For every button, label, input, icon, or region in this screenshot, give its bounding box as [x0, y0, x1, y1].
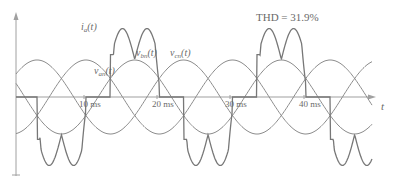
tick-label-40: 40 ms [299, 99, 321, 109]
ia-label-tail: (t) [87, 21, 97, 33]
van-label-tail: (t) [105, 65, 115, 77]
vbn-label-tail: (t) [147, 47, 157, 59]
vbn-label: vbn(t) [136, 47, 158, 60]
y-axis-arrow-icon [14, 12, 19, 20]
tick-label-10: 10 ms [79, 99, 101, 109]
thd-annotation: THD = 31.9% [256, 11, 319, 23]
time-axis-arrow-icon [368, 95, 376, 100]
waveform-chart: THD = 31.9% t ia(t) van(t) vbn(t) vcn(t)… [0, 0, 398, 181]
axes [12, 12, 376, 176]
t-axis-label: t [381, 100, 385, 112]
vcn-label-tail: (t) [181, 47, 191, 59]
tick-label-20: 20 ms [152, 99, 174, 109]
tick-label-30: 30 ms [225, 99, 247, 109]
vcn-label: vcn(t) [170, 47, 191, 60]
ia-label: ia(t) [81, 21, 97, 34]
